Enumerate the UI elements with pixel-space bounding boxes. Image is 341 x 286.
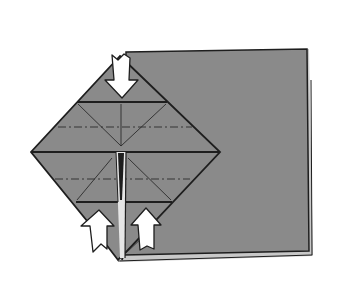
origami-diagram bbox=[0, 0, 341, 286]
